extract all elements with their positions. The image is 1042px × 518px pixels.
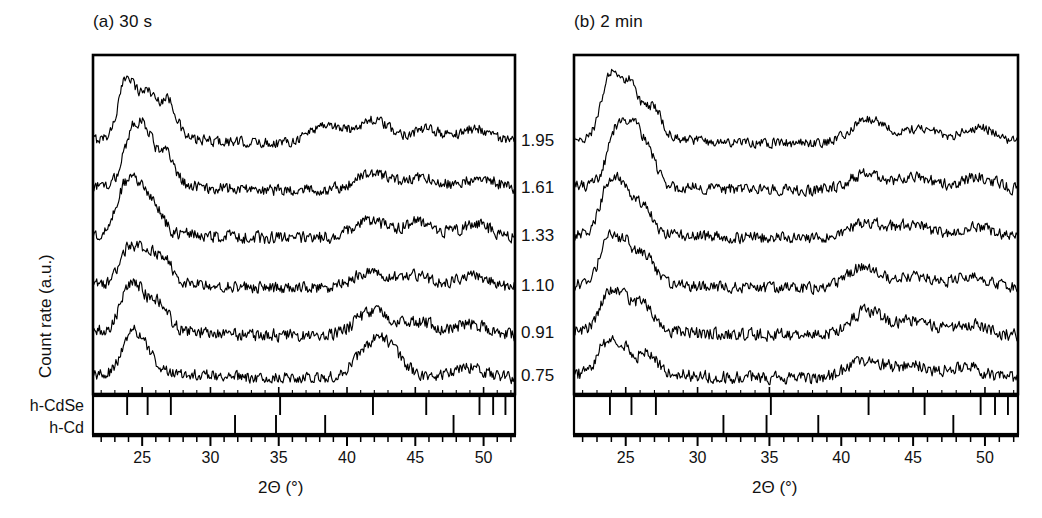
x-tick-label: 35 — [747, 449, 791, 467]
x-tick-label: 45 — [891, 449, 935, 467]
panel-a-x-axis-label: 2Θ (°) — [258, 478, 304, 498]
xrd-trace — [574, 172, 1018, 243]
plot-frame-a — [93, 55, 515, 394]
xrd-trace — [574, 118, 1018, 196]
offset-label: 1.33 — [521, 226, 554, 246]
phase-label-h-cd: h-Cd — [0, 419, 84, 437]
xrd-trace — [93, 76, 515, 148]
x-tick-label: 30 — [676, 449, 720, 467]
x-tick-label: 50 — [963, 449, 1007, 467]
x-tick-label: 50 — [462, 449, 506, 467]
x-tick-label: 35 — [257, 449, 301, 467]
offset-label: 0.75 — [521, 366, 554, 386]
xrd-trace — [574, 69, 1018, 148]
xrd-trace — [574, 287, 1018, 341]
x-tick-label: 25 — [120, 449, 164, 467]
panel-b-title: (b) 2 min — [574, 12, 643, 32]
x-tick-label: 25 — [604, 449, 648, 467]
x-tick-label: 40 — [325, 449, 369, 467]
offset-label: 1.95 — [521, 131, 554, 151]
panel-b-x-axis-label: 2Θ (°) — [752, 478, 798, 498]
plot-canvas — [0, 0, 1042, 518]
x-tick-label: 45 — [393, 449, 437, 467]
xrd-trace — [93, 279, 515, 342]
offset-label: 0.91 — [521, 323, 554, 343]
offset-label: 1.61 — [521, 178, 554, 198]
x-tick-label: 40 — [819, 449, 863, 467]
xrd-trace — [574, 336, 1018, 385]
xrd-trace — [93, 325, 515, 383]
reference-frame-a — [93, 396, 515, 434]
xrd-figure: (a) 30 s Count rate (a.u.) 2Θ (°) (b) 2 … — [0, 0, 1042, 518]
xrd-trace — [93, 241, 515, 293]
x-tick-label: 30 — [188, 449, 232, 467]
reference-frame-b — [574, 396, 1018, 434]
phase-label-h-cdse: h-CdSe — [0, 397, 84, 415]
plot-frame-b — [574, 55, 1018, 394]
xrd-trace — [93, 118, 515, 196]
offset-label: 1.10 — [521, 276, 554, 296]
